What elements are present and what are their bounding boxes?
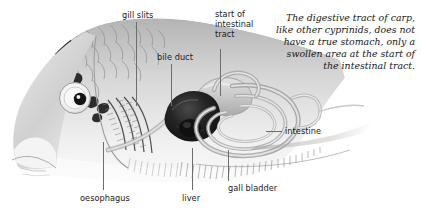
gut-tail-extension [318, 105, 364, 112]
label-gill-slits: gill slits [122, 10, 153, 20]
fish-eye [60, 83, 91, 114]
leader-line-gall-bladder [228, 150, 229, 181]
label-start-of-intestinal-tract-line-1: start of [215, 9, 245, 19]
label-liver: liver [182, 193, 200, 203]
leader-line-intestine [266, 131, 282, 132]
label-gall-bladder: gall bladder [228, 183, 277, 193]
label-start-of-intestinal-tract: start of intestinal tract [215, 9, 275, 39]
label-start-of-intestinal-tract-line-3: tract [215, 29, 235, 39]
leader-line-start-of-tract [220, 49, 221, 96]
label-intestine: intestine [285, 126, 321, 136]
leader-line-gill-slits [136, 22, 137, 106]
figure-carp-digestive-tract: gill slits start of intestinal tract bil… [0, 0, 421, 211]
label-bile-duct: bile duct [157, 52, 193, 62]
label-start-of-intestinal-tract-line-2: intestinal [215, 19, 253, 29]
leader-line-liver [192, 148, 193, 190]
leader-line-oesophagus [103, 142, 104, 190]
leader-line-bile-duct [171, 64, 172, 106]
figure-caption: The digestive tract of carp, like other … [276, 12, 415, 72]
label-oesophagus: oesophagus [80, 193, 130, 203]
